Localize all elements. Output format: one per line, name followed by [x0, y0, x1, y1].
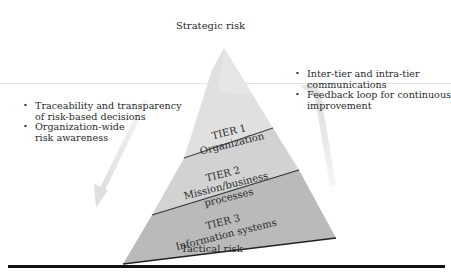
right-bullet-item: Inter-tier and intra-tier communications — [293, 69, 451, 90]
bottom-rule — [8, 265, 445, 268]
strategic-risk-label: Strategic risk — [176, 20, 245, 31]
tactical-risk-label: Tactical risk — [181, 243, 243, 254]
left-bullet-list: Traceability and transparency of risk-ba… — [21, 101, 182, 143]
left-bullet-item: Traceability and transparency of risk-ba… — [21, 101, 182, 122]
right-bullet-list: Inter-tier and intra-tier communications… — [293, 69, 451, 111]
right-bullet-item: Feedback loop for continuous improvement — [293, 90, 451, 111]
left-bullet-item: Organization-wide risk awareness — [21, 122, 182, 143]
